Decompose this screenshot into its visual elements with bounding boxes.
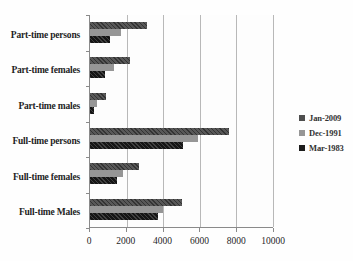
y-axis-tick-mark [86,51,89,52]
legend-item: Dec-1991 [299,125,344,140]
bar-jan-2009 [90,163,139,170]
y-axis-tick-mark [86,86,89,87]
bar-dec-1991 [90,206,163,213]
bar-group [90,15,273,50]
category-label: Part-time males [0,86,85,122]
bar-groups [90,15,273,227]
bar-dec-1991 [90,64,114,71]
bar-mar-1983 [90,71,105,78]
category-label: Part-time persons [0,15,85,51]
category-label: Part-time females [0,51,85,87]
bar-jan-2009 [90,22,147,29]
x-axis-tick-label: 10000 [261,236,285,246]
x-axis-tick-mark [273,228,274,232]
x-axis-tick-mark [236,228,237,232]
x-axis-tick-label: 8000 [227,236,246,246]
bar-group [90,192,273,227]
legend-item: Jan-2009 [299,110,344,125]
x-axis-tick-label: 4000 [153,236,172,246]
x-axis-tick-label: 2000 [116,236,135,246]
bar-group [90,86,273,121]
legend-label: Jan-2009 [309,113,341,123]
x-axis-tick-label: 6000 [190,236,209,246]
bar-group [90,121,273,156]
y-axis-tick-mark [86,15,89,16]
category-label: Full-time Males [0,193,85,229]
x-axis-tick-label: 0 [87,236,92,246]
category-label: Full-time persons [0,122,85,158]
bar-jan-2009 [90,93,106,100]
category-label: Full-time females [0,157,85,193]
legend-label: Mar-1983 [309,143,344,153]
bar-group [90,50,273,85]
x-axis-tick-mark [199,228,200,232]
legend-swatch-dec-1991 [299,130,305,136]
x-axis-tick-mark [163,228,164,232]
bar-jan-2009 [90,199,182,206]
y-axis-tick-mark [86,157,89,158]
legend-swatch-mar-1983 [299,145,305,151]
y-axis-tick-mark [86,228,89,229]
bar-dec-1991 [90,170,123,177]
category-axis-labels: Part-time personsPart-time femalesPart-t… [0,15,85,228]
legend: Jan-2009Dec-1991Mar-1983 [299,110,344,155]
bar-jan-2009 [90,57,130,64]
bar-dec-1991 [90,100,97,107]
legend-swatch-jan-2009 [299,115,305,121]
bar-jan-2009 [90,128,229,135]
bar-mar-1983 [90,36,110,43]
bar-dec-1991 [90,29,121,36]
employment-bar-chart: Part-time personsPart-time femalesPart-t… [0,0,353,261]
bar-mar-1983 [90,213,158,220]
bar-dec-1991 [90,135,198,142]
bar-mar-1983 [90,107,94,114]
legend-item: Mar-1983 [299,140,344,155]
y-axis-tick-mark [86,122,89,123]
bar-mar-1983 [90,142,183,149]
bar-mar-1983 [90,177,117,184]
y-axis-tick-mark [86,193,89,194]
plot-area [89,15,273,228]
gridline [273,15,274,227]
bar-group [90,156,273,191]
x-axis-tick-mark [126,228,127,232]
x-axis-tick-mark [89,228,90,232]
legend-label: Dec-1991 [309,128,342,138]
